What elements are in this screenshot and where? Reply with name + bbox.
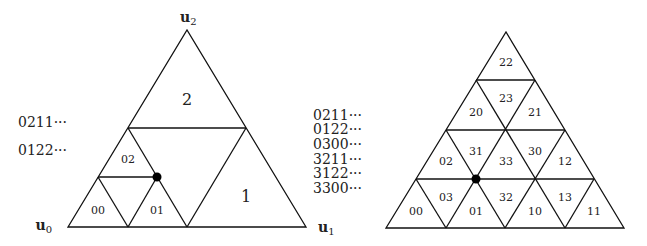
cell-20: 20 xyxy=(469,106,483,119)
region-label-00: 00 xyxy=(91,204,105,217)
fixed-point-marker-right xyxy=(472,175,481,184)
cell-21: 21 xyxy=(528,106,542,119)
right-address-3: 0300··· xyxy=(313,136,362,152)
cell-11: 11 xyxy=(587,205,601,218)
right-address-5: 3122··· xyxy=(313,165,362,181)
cell-01: 01 xyxy=(469,205,483,218)
cell-03: 03 xyxy=(439,191,453,204)
cell-23: 23 xyxy=(499,92,513,105)
right-address-2: 0122··· xyxy=(313,121,362,137)
right-address-6: 3300··· xyxy=(313,180,362,196)
right-addresses: 0211··· 0122··· 0300··· 3211··· 3122··· … xyxy=(313,107,362,196)
cell-13: 13 xyxy=(558,191,572,204)
region-label-2: 2 xyxy=(182,90,192,109)
left-triangle xyxy=(68,30,306,227)
diagram-canvas: 2 1 02 00 01 u0 u1 u2 0211··· 0122··· 02… xyxy=(0,0,647,246)
region-label-01: 01 xyxy=(150,204,164,217)
vertex-u1: u1 xyxy=(318,219,335,237)
cell-30: 30 xyxy=(528,145,542,158)
cell-10: 10 xyxy=(528,205,542,218)
cell-31: 31 xyxy=(469,145,483,158)
region-label-1: 1 xyxy=(241,187,251,206)
vertex-u0: u0 xyxy=(35,217,52,235)
left-address-1: 0211··· xyxy=(18,114,67,130)
cell-02: 02 xyxy=(439,155,453,168)
cell-33: 33 xyxy=(499,155,513,168)
fixed-point-marker xyxy=(153,173,162,182)
vertex-u2: u2 xyxy=(180,9,197,27)
cell-22: 22 xyxy=(499,56,513,69)
cell-00: 00 xyxy=(409,205,423,218)
cell-12: 12 xyxy=(558,155,572,168)
left-address-2: 0122··· xyxy=(18,142,67,158)
region-label-02: 02 xyxy=(121,153,135,166)
cell-32: 32 xyxy=(499,191,513,204)
